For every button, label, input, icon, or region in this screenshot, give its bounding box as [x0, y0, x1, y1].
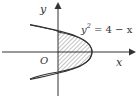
- y-axis-arrow-icon: [55, 2, 62, 9]
- svg-text:y2 = 4 − x: y2 = 4 − x: [80, 22, 133, 35]
- x-axis-arrow-icon: [129, 49, 136, 56]
- parabola-diagram: y x O y2 = 4 − x: [0, 0, 137, 98]
- y-axis-label: y: [39, 3, 47, 16]
- x-axis-label: x: [116, 56, 123, 69]
- origin-label: O: [40, 55, 48, 66]
- equation-label: y2 = 4 − x: [80, 22, 133, 35]
- equation-rhs: = 4 − x: [91, 24, 133, 35]
